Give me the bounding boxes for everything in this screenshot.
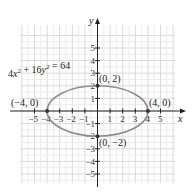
x-tick-label: −2 [66, 114, 76, 124]
x-tick-label: 3 [133, 114, 138, 124]
equation-label: 4x2 + 16y2 = 64 [8, 60, 70, 79]
point-label-bottom: (0, −2) [99, 137, 126, 149]
y-tick-label: −1 [86, 119, 96, 129]
y-tick-label: −3 [86, 144, 96, 154]
x-tick-label: 1 [108, 114, 113, 124]
x-tick-label: −5 [29, 114, 39, 124]
y-axis-label: y [88, 15, 94, 26]
point-left [45, 109, 49, 113]
point-label-top: (0, 2) [99, 73, 121, 85]
y-tick-label: −5 [86, 169, 96, 179]
y-tick-label: −4 [86, 157, 96, 167]
x-tick-label: 2 [120, 114, 125, 124]
point-label-left: (−4, 0) [11, 97, 38, 109]
y-tick-label: 3 [91, 68, 96, 78]
y-tick-label: 4 [91, 56, 96, 66]
x-axis-label: x [177, 113, 183, 124]
x-tick-label: 5 [158, 114, 163, 124]
y-tick-label: 1 [91, 94, 96, 104]
point-label-right: (4, 0) [149, 97, 171, 109]
ellipse-graph: −5−4−3−2−11234554321−1−2−3−4−5 y x 4x2 +… [0, 0, 192, 195]
y-axis-arrow-icon [95, 18, 100, 24]
y-tick-label: 5 [91, 43, 96, 53]
point-right [146, 109, 150, 113]
x-tick-label: −3 [54, 114, 64, 124]
point-top [96, 84, 100, 88]
